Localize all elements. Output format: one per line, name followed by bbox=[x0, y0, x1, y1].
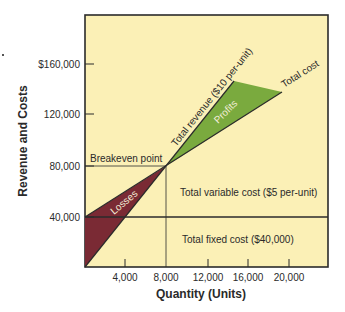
fixed-cost-label: Total fixed cost ($40,000) bbox=[182, 234, 294, 245]
y-tick-label: $160,000 bbox=[38, 59, 80, 70]
plot-area bbox=[85, 15, 328, 267]
x-tick-label: 12,000 bbox=[193, 272, 224, 283]
x-tick-label: 20,000 bbox=[274, 272, 305, 283]
x-axis-title: Quantity (Units) bbox=[156, 287, 246, 301]
x-tick-label: 4,000 bbox=[112, 272, 137, 283]
y-tick-label: 40,000 bbox=[49, 212, 80, 223]
y-tick-label: 120,000 bbox=[44, 109, 81, 120]
variable-cost-label: Total variable cost ($5 per-unit) bbox=[180, 187, 317, 198]
x-tick-label: 8,000 bbox=[153, 272, 178, 283]
y-axis-title: Revenue and Costs bbox=[16, 85, 30, 197]
breakeven-chart: $160,000 120,000 80,000 40,000 4,000 8,0… bbox=[0, 0, 345, 312]
breakeven-label: Breakeven point bbox=[90, 153, 162, 164]
y-tick-label: 80,000 bbox=[49, 161, 80, 172]
x-tick-label: 16,000 bbox=[233, 272, 264, 283]
